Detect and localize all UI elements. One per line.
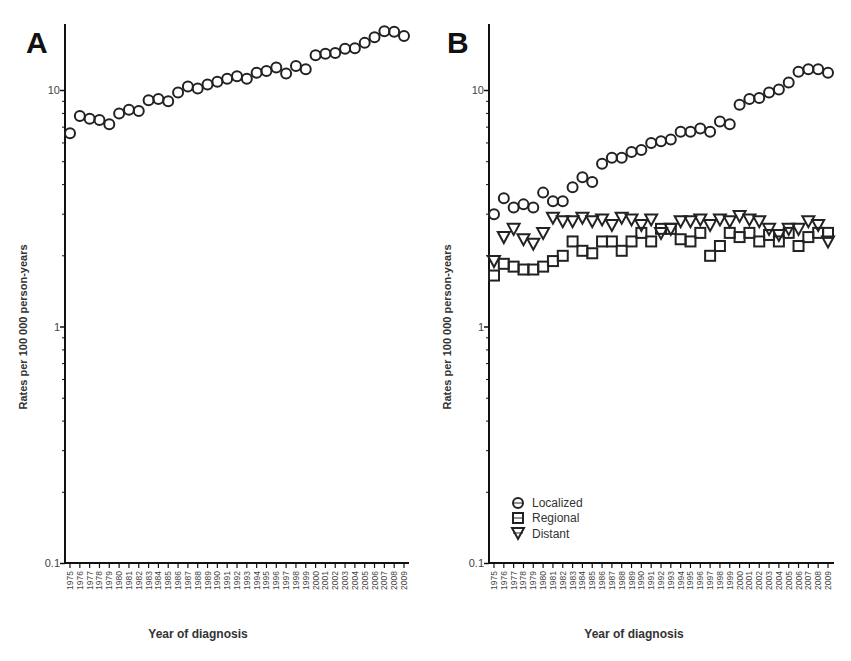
data-point-circle — [577, 172, 587, 182]
xtick-label: 1982 — [134, 571, 144, 590]
series-b-points — [488, 64, 834, 280]
data-point-circle — [715, 116, 725, 126]
legend-label-localized: Localized — [532, 496, 583, 510]
xtick-label: 1982 — [558, 571, 568, 590]
data-point-square — [685, 236, 695, 246]
data-point-triangle — [537, 228, 549, 239]
xtick-label: 1996 — [271, 571, 281, 590]
data-point-triangle — [724, 216, 736, 227]
data-point-square — [695, 228, 705, 238]
data-point-circle — [489, 209, 499, 219]
data-point-triangle — [498, 232, 510, 243]
data-point-triangle — [527, 239, 539, 250]
data-point-circle — [75, 111, 85, 121]
xtick-label: 1986 — [173, 571, 183, 590]
data-point-circle — [636, 145, 646, 155]
data-point-circle — [646, 138, 656, 148]
data-point-circle — [617, 153, 627, 163]
xtick-label: 2004 — [350, 571, 360, 590]
data-point-square — [597, 236, 607, 246]
xtick-label: 1978 — [518, 571, 528, 590]
data-point-triangle — [606, 220, 618, 231]
xtick-label: 1993 — [242, 571, 252, 590]
xtick-label: 2007 — [379, 571, 389, 590]
data-point-square — [489, 271, 499, 281]
xtick-label: 1997 — [281, 571, 291, 590]
data-point-circle — [399, 31, 409, 41]
data-point-square — [558, 251, 568, 261]
data-point-circle — [499, 193, 509, 203]
xtick-label: 1978 — [94, 571, 104, 590]
legend: Localized Regional Distant — [512, 496, 583, 541]
xtick-label: 1989 — [627, 571, 637, 590]
data-point-circle — [725, 119, 735, 129]
data-point-circle — [676, 127, 686, 137]
data-point-circle — [823, 68, 833, 78]
data-point-circle — [794, 67, 804, 77]
xtick-label: 1975 — [65, 571, 75, 590]
data-point-circle — [222, 74, 232, 84]
xtick-label: 1999 — [301, 571, 311, 590]
xtick-label: 1981 — [548, 571, 558, 590]
data-point-square — [617, 246, 627, 256]
xtick-label: 1983 — [144, 571, 154, 590]
xtick-label: 1988 — [617, 571, 627, 590]
xtick-label: 2005 — [784, 571, 794, 590]
xtick-label: 1984 — [153, 571, 163, 590]
data-point-circle — [340, 44, 350, 54]
data-point-square — [646, 236, 656, 246]
data-point-circle — [803, 64, 813, 74]
xtick-label: 1992 — [656, 571, 666, 590]
data-point-square — [705, 251, 715, 261]
data-point-circle — [65, 128, 75, 138]
data-point-circle — [705, 127, 715, 137]
xtick-label: 1977 — [509, 571, 519, 590]
data-point-circle — [695, 124, 705, 134]
data-point-circle — [754, 93, 764, 103]
data-point-circle — [232, 71, 242, 81]
data-point-square — [754, 236, 764, 246]
xtick-label: 1980 — [538, 571, 548, 590]
xtick-label: 1992 — [232, 571, 242, 590]
ytick-a-10: 10 — [48, 84, 60, 96]
xtick-label: 1990 — [636, 571, 646, 590]
xtick-label: 2001 — [320, 571, 330, 590]
data-point-circle — [183, 81, 193, 91]
data-point-circle — [193, 83, 203, 93]
data-point-circle — [261, 66, 271, 76]
data-point-circle — [291, 61, 301, 71]
data-point-circle — [538, 188, 548, 198]
data-point-square — [528, 265, 538, 275]
xtick-label: 1995 — [261, 571, 271, 590]
xtick-label: 1981 — [124, 571, 134, 590]
xtick-label: 2000 — [735, 571, 745, 590]
xtick-label: 1994 — [252, 571, 262, 590]
xtick-label: 2009 — [823, 571, 833, 590]
xtick-label: 1994 — [676, 571, 686, 590]
xtick-label: 2001 — [744, 571, 754, 590]
panel-b: 1975197619771978197919801981198219831984… — [441, 24, 834, 641]
xtick-label: 1985 — [163, 571, 173, 590]
xtick-label: 2006 — [794, 571, 804, 590]
xtick-label: 1991 — [646, 571, 656, 590]
xtick-label: 1998 — [291, 571, 301, 590]
data-point-circle — [134, 106, 144, 116]
data-point-circle — [509, 203, 519, 213]
data-point-circle — [784, 78, 794, 88]
xtick-label: 1993 — [666, 571, 676, 590]
data-point-circle — [203, 80, 213, 90]
data-point-square — [607, 236, 617, 246]
xtick-label: 2003 — [340, 571, 350, 590]
xtick-label: 2004 — [774, 571, 784, 590]
xtick-label: 1986 — [597, 571, 607, 590]
data-point-circle — [666, 135, 676, 145]
data-point-circle — [301, 64, 311, 74]
data-point-circle — [370, 32, 380, 42]
legend-label-distant: Distant — [532, 527, 570, 541]
data-point-circle — [389, 27, 399, 37]
xtick-label: 1988 — [193, 571, 203, 590]
data-point-square — [676, 234, 686, 244]
data-point-circle — [528, 203, 538, 213]
xtick-label: 2003 — [764, 571, 774, 590]
data-point-square — [568, 236, 578, 246]
